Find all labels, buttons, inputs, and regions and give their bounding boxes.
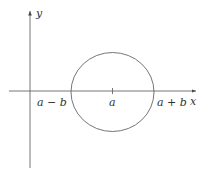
label-a-plus-b: a + b: [157, 96, 187, 109]
label-a: a: [109, 96, 116, 109]
circle-diagram: y x a − b a a + b: [0, 0, 208, 176]
label-a-minus-b: a − b: [37, 96, 67, 109]
x-axis-label: x: [190, 95, 197, 108]
y-axis-label: y: [35, 7, 43, 20]
